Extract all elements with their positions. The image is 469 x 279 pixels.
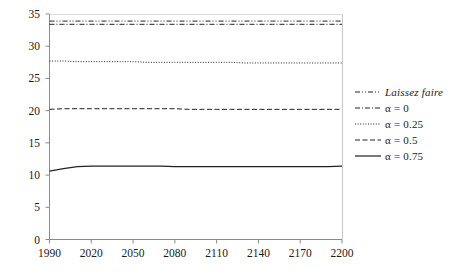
y-tick-label: 25	[14, 72, 40, 84]
y-tick-label: 0	[14, 234, 40, 246]
y-tick-label: 15	[14, 137, 40, 149]
chart-legend: Laissez faire α = 0 α = 0.25 α = 0.5 α =…	[355, 84, 467, 164]
x-tick-label: 2080	[155, 247, 195, 259]
legend-label-alpha-0: α = 0	[385, 102, 409, 114]
y-tick-marks	[46, 14, 50, 240]
legend-item[interactable]: Laissez faire	[355, 84, 467, 100]
legend-swatch-alpha-0	[355, 103, 381, 113]
legend-item[interactable]: α = 0.5	[355, 132, 467, 148]
series-line	[50, 109, 343, 110]
series-line	[50, 61, 343, 63]
y-tick-label: 35	[14, 8, 40, 20]
y-tick-label: 10	[14, 169, 40, 181]
x-tick-label: 2200	[322, 247, 362, 259]
legend-label-alpha-05: α = 0.5	[385, 134, 418, 146]
x-tick-label: 1990	[30, 247, 70, 259]
legend-item[interactable]: α = 0.75	[355, 148, 467, 164]
legend-label-alpha-025: α = 0.25	[385, 118, 423, 130]
x-tick-label: 2170	[280, 247, 320, 259]
x-tick-label: 2020	[71, 247, 111, 259]
series-lines	[50, 21, 343, 171]
legend-label-laissez-faire: Laissez faire	[385, 86, 443, 98]
chart-figure: 35302520151050 1990202020502080211021402…	[0, 0, 469, 279]
x-tick-marks	[50, 240, 343, 244]
legend-item[interactable]: α = 0.25	[355, 116, 467, 132]
y-tick-label: 20	[14, 105, 40, 117]
legend-label-alpha-075: α = 0.75	[385, 150, 423, 162]
x-tick-label: 2140	[238, 247, 278, 259]
legend-swatch-alpha-05	[355, 135, 381, 145]
series-line	[50, 166, 343, 171]
legend-swatch-alpha-075	[355, 151, 381, 161]
y-tick-label: 5	[14, 201, 40, 213]
x-tick-label: 2110	[197, 247, 237, 259]
legend-swatch-alpha-025	[355, 119, 381, 129]
y-tick-label: 30	[14, 40, 40, 52]
x-tick-label: 2050	[113, 247, 153, 259]
legend-item[interactable]: α = 0	[355, 100, 467, 116]
legend-swatch-laissez-faire	[355, 87, 381, 97]
